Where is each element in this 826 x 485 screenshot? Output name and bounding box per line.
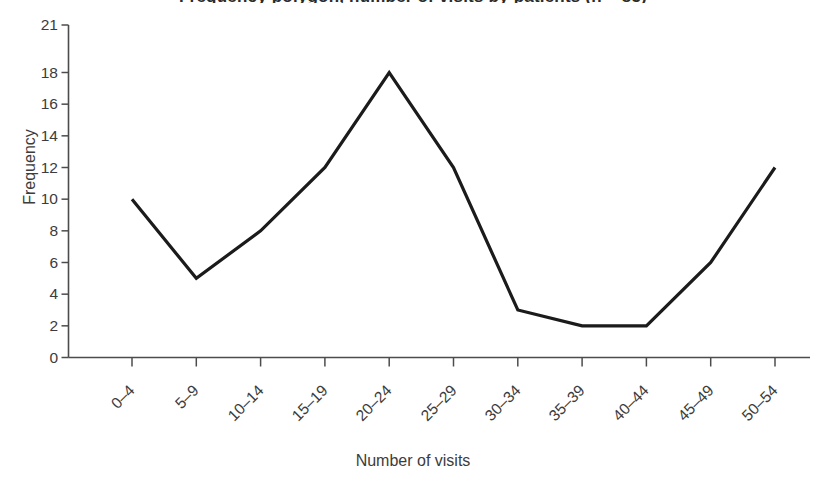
frequency-polygon-chart: Frequency polygon, number of visits by p… — [0, 0, 826, 485]
x-tick-label-group: 0–45–910–1415–1920–2425–2930–3435–3940–4… — [0, 0, 826, 485]
x-axis-title: Number of visits — [0, 452, 826, 470]
